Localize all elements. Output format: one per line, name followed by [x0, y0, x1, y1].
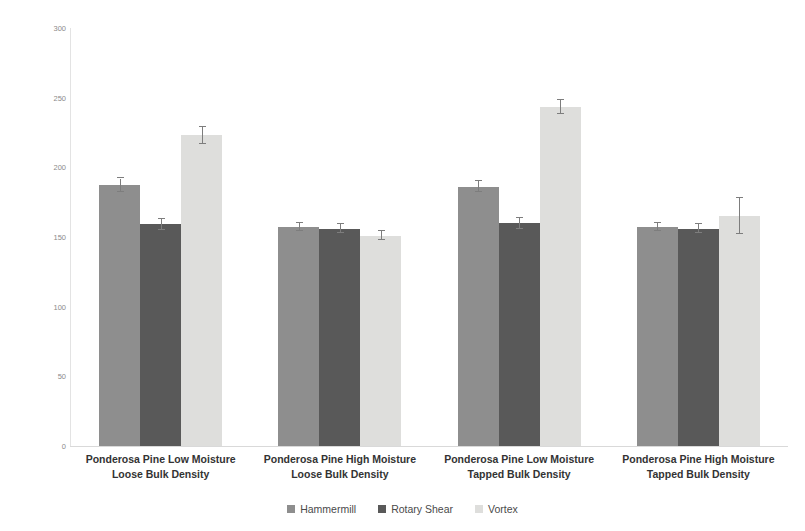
x-axis-category-label: Ponderosa Pine High MoistureTapped Bulk … [609, 452, 788, 482]
y-axis-tick-label: 0 [26, 442, 66, 451]
bar[interactable] [458, 187, 499, 446]
bar[interactable] [678, 229, 719, 446]
error-bar-cap [337, 232, 344, 233]
legend-swatch-icon [475, 505, 483, 513]
legend-label: Vortex [488, 503, 518, 515]
error-bar-cap [117, 177, 124, 178]
bar[interactable] [99, 185, 140, 446]
y-axis-tick-label: 250 [26, 93, 66, 102]
bar-group [430, 28, 609, 446]
error-bar-cap [158, 229, 165, 230]
y-axis-tick-label: 50 [26, 372, 66, 381]
error-bar-cap [557, 113, 564, 114]
error-bar-cap [695, 232, 702, 233]
x-axis-category-label: Ponderosa Pine Low MoistureTapped Bulk D… [430, 452, 609, 482]
bar-chart: Density (kg/m^3) 300250200150100500 Pond… [0, 0, 805, 531]
category-label-line: Ponderosa Pine High Moisture [250, 452, 429, 467]
error-bar-cap [736, 197, 743, 198]
bar[interactable] [319, 229, 360, 446]
error-bar-cap [199, 126, 206, 127]
legend-swatch-icon [287, 505, 295, 513]
legend-item[interactable]: Hammermill [287, 503, 356, 515]
y-axis-tick-label: 150 [26, 233, 66, 242]
bar[interactable] [637, 227, 678, 446]
error-bar-cap [199, 143, 206, 144]
bar[interactable] [499, 223, 540, 446]
x-axis-category-label: Ponderosa Pine High MoistureLoose Bulk D… [250, 452, 429, 482]
category-label-line: Tapped Bulk Density [609, 467, 788, 482]
category-label-line: Ponderosa Pine Low Moisture [71, 452, 250, 467]
error-bar-cap [736, 233, 743, 234]
y-axis-tick-label: 200 [26, 163, 66, 172]
error-bar-cap [516, 217, 523, 218]
y-axis-tick-label: 300 [26, 24, 66, 33]
error-bar-cap [296, 222, 303, 223]
error-bar-cap [378, 230, 385, 231]
bar[interactable] [540, 107, 581, 446]
error-bar-cap [695, 223, 702, 224]
error-bar-cap [654, 222, 661, 223]
category-label-line: Loose Bulk Density [250, 467, 429, 482]
error-bar-cap [296, 230, 303, 231]
chart-legend: HammermillRotary ShearVortex [0, 503, 805, 515]
category-label-line: Ponderosa Pine Low Moisture [430, 452, 609, 467]
category-label-line: Loose Bulk Density [71, 467, 250, 482]
legend-item[interactable]: Rotary Shear [378, 503, 453, 515]
legend-label: Rotary Shear [391, 503, 453, 515]
category-label-line: Ponderosa Pine High Moisture [609, 452, 788, 467]
error-bar-cap [516, 228, 523, 229]
error-bar-cap [557, 99, 564, 100]
bar-group [609, 28, 788, 446]
error-bar [739, 198, 740, 234]
error-bar [560, 100, 561, 114]
error-bar-cap [378, 239, 385, 240]
bar[interactable] [181, 135, 222, 446]
y-axis-tick-label: 100 [26, 302, 66, 311]
bar[interactable] [140, 224, 181, 446]
bar[interactable] [719, 216, 760, 446]
bar-group [71, 28, 250, 446]
error-bar-cap [117, 191, 124, 192]
error-bar-cap [337, 223, 344, 224]
error-bar-cap [475, 180, 482, 181]
error-bar-cap [654, 230, 661, 231]
error-bar [120, 179, 121, 193]
x-axis-line [70, 446, 788, 447]
x-axis-category-label: Ponderosa Pine Low MoistureLoose Bulk De… [71, 452, 250, 482]
legend-label: Hammermill [300, 503, 356, 515]
error-bar [202, 127, 203, 144]
bar[interactable] [278, 227, 319, 446]
error-bar-cap [475, 191, 482, 192]
error-bar-cap [158, 218, 165, 219]
y-axis-tick-labels: 300250200150100500 [22, 0, 66, 531]
plot-area [71, 28, 788, 446]
bar-group [250, 28, 429, 446]
legend-swatch-icon [378, 505, 386, 513]
x-axis-category-labels: Ponderosa Pine Low MoistureLoose Bulk De… [71, 452, 788, 496]
category-label-line: Tapped Bulk Density [430, 467, 609, 482]
bar[interactable] [360, 236, 401, 446]
legend-item[interactable]: Vortex [475, 503, 518, 515]
